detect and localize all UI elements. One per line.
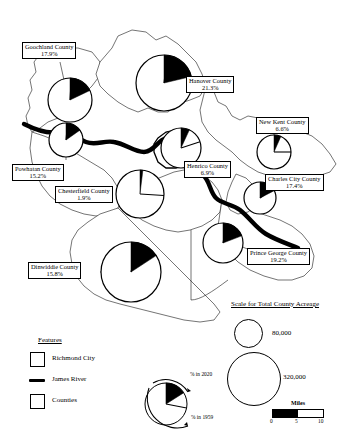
scale-tick-10: 10 (318, 418, 323, 424)
county-pie-chesterfield[interactable] (114, 168, 166, 220)
acreage-label-small: 80,000 (272, 329, 291, 337)
county-percent: 17.4% (268, 183, 321, 190)
pie-legend-label-1959: % in 1959 (191, 414, 213, 420)
county-percent: 17.9% (25, 51, 73, 58)
acreage-label-large: 320,000 (283, 373, 306, 381)
county-label-hanover[interactable]: Hanover County21.3% (186, 76, 234, 93)
county-label-henrico[interactable]: Henrico County6.9% (184, 161, 231, 178)
county-label-goochland[interactable]: Goochland County17.9% (22, 42, 76, 59)
county-label-powhatan[interactable]: Powhatan County15.2% (12, 164, 64, 181)
richmond-city-swatch (30, 352, 45, 367)
scale-bar-empty (297, 409, 324, 418)
county-label-prince-george[interactable]: Prince George County19.2% (247, 248, 310, 265)
legend-label-counties: Counties (52, 396, 77, 404)
county-percent: 6.9% (187, 170, 228, 177)
scale-tick-0: 0 (270, 418, 273, 424)
legend-label-richmond-city: Richmond City (52, 354, 95, 362)
james-river-swatch (29, 379, 45, 382)
county-percent: 15.2% (15, 173, 61, 180)
pie-legend-label-2020: % in 2020 (190, 371, 212, 377)
county-pie-dinwiddie[interactable] (99, 240, 163, 304)
acreage-legend-title: Scale for Total County Acreage (231, 300, 319, 308)
county-pie-new-kent[interactable] (255, 133, 293, 171)
scale-tick-5: 5 (295, 418, 298, 424)
acreage-circle-large (227, 352, 281, 406)
county-percent: 1.9% (58, 195, 110, 202)
county-percent: 19.2% (250, 257, 307, 264)
county-percent: 15.8% (31, 271, 78, 278)
acreage-circle-small (234, 319, 263, 348)
county-pie-goochland[interactable] (46, 76, 94, 124)
county-percent: 21.3% (189, 85, 231, 92)
county-pie-prince-george[interactable] (201, 221, 245, 265)
county-label-charles-city[interactable]: Charles City County17.4% (265, 174, 324, 191)
pie-legend-diagram (140, 368, 200, 430)
county-pie-hanover[interactable] (134, 53, 194, 113)
county-label-new-kent[interactable]: New Kent County6.6% (256, 117, 309, 134)
counties-swatch (30, 394, 45, 409)
scale-bar-filled (272, 409, 299, 418)
features-legend-title: Features (38, 336, 62, 344)
county-percent: 6.6% (259, 126, 306, 133)
county-label-chesterfield[interactable]: Chesterfield County1.9% (55, 186, 113, 203)
legend-label-james-river: James River (52, 375, 86, 383)
scale-bar-title: Miles (291, 400, 305, 406)
county-pie-powhatan[interactable] (47, 121, 85, 159)
county-label-dinwiddie[interactable]: Dinwiddie County15.8% (28, 262, 81, 279)
